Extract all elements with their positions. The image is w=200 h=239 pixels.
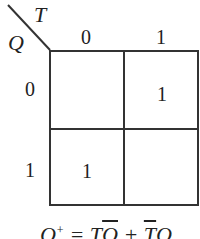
- eq-lhs: Q: [40, 222, 56, 239]
- eq-plus: +: [118, 222, 144, 239]
- row-label-0: 0: [20, 79, 40, 99]
- eq-t1: T: [90, 222, 102, 239]
- column-label-0: 0: [76, 27, 96, 47]
- row-variable: Q: [8, 32, 24, 54]
- column-label-1: 1: [151, 27, 171, 47]
- cell-q1-t0: 1: [51, 161, 123, 181]
- eq-sup: +: [56, 223, 64, 237]
- eq-sign: =: [64, 222, 90, 239]
- column-variable: T: [34, 4, 46, 26]
- grid-horizontal-divider: [49, 128, 199, 130]
- cell-q0-t1: 1: [125, 84, 199, 104]
- eq-q1-bar: Q: [102, 222, 118, 239]
- row-label-1: 1: [20, 160, 40, 180]
- equation: Q+ = TQ + TQ: [40, 222, 172, 239]
- eq-t2-bar: T: [144, 222, 156, 239]
- eq-q2: Q: [156, 222, 172, 239]
